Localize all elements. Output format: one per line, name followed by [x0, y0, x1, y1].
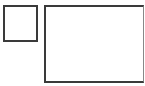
small-square-box: [3, 5, 38, 42]
large-rectangle-box: [44, 5, 144, 83]
